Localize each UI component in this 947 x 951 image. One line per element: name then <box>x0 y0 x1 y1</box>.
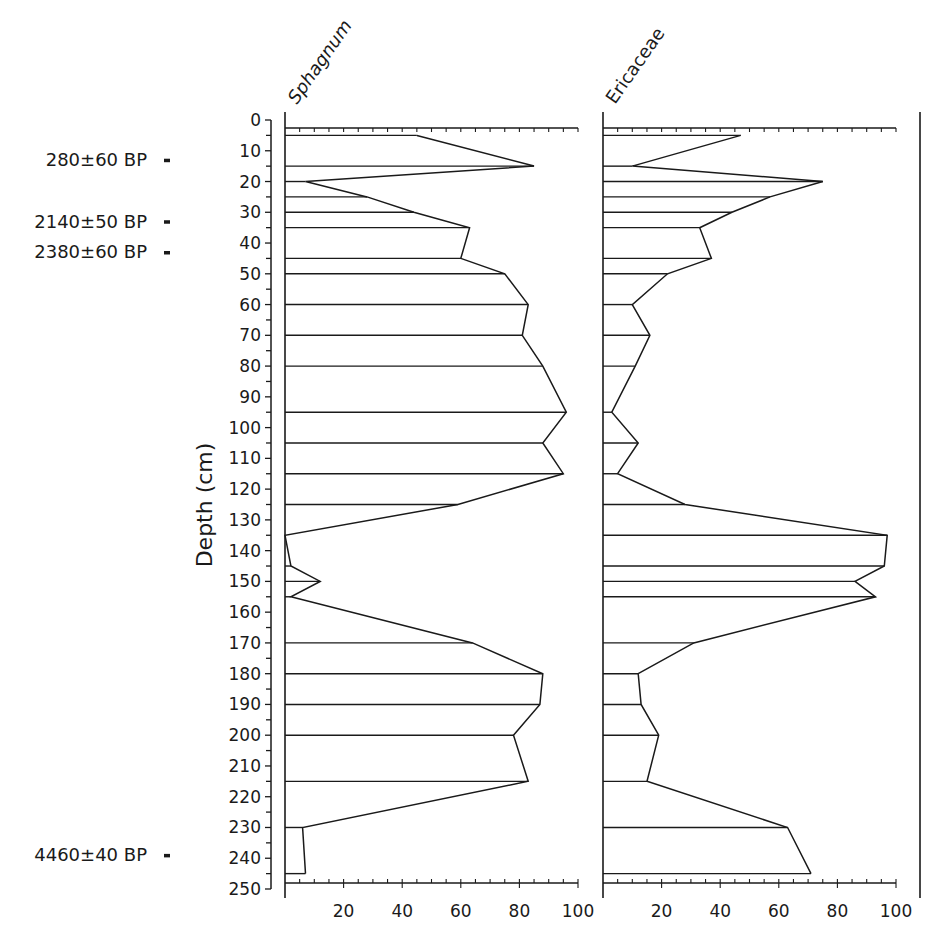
depth-tick-label: 110 <box>229 448 261 468</box>
ericaceae-panel: 20406080100Ericaceae <box>601 23 912 921</box>
depth-tick-label: 230 <box>229 817 261 837</box>
depth-tick-label: 150 <box>229 571 261 591</box>
percent-tick-label: 60 <box>768 901 790 921</box>
depth-tick-label: 100 <box>229 418 261 438</box>
date-marker <box>164 220 170 224</box>
depth-tick-label: 160 <box>229 602 261 622</box>
taxon-label: Ericaceae <box>601 23 669 107</box>
date-marker <box>164 251 170 255</box>
date-label: 4460±40 BP <box>34 844 147 865</box>
taxon-label: Sphagnum <box>283 16 356 108</box>
percent-tick-label: 40 <box>709 901 731 921</box>
depth-tick-label: 80 <box>239 356 261 376</box>
date-label: 280±60 BP <box>46 149 147 170</box>
date-label: 2140±50 BP <box>34 211 147 232</box>
radiocarbon-dates: 280±60 BP2140±50 BP2380±60 BP4460±40 BP <box>34 149 170 865</box>
depth-tick-label: 180 <box>229 664 261 684</box>
depth-tick-label: 190 <box>229 694 261 714</box>
depth-tick-label: 90 <box>239 387 261 407</box>
depth-tick-label: 130 <box>229 510 261 530</box>
percent-tick-label: 20 <box>333 901 355 921</box>
percent-tick-label: 100 <box>880 901 912 921</box>
depth-tick-label: 210 <box>229 756 261 776</box>
percent-tick-label: 60 <box>450 901 472 921</box>
percent-tick-label: 80 <box>827 901 849 921</box>
depth-tick-label: 200 <box>229 725 261 745</box>
percent-tick-label: 80 <box>509 901 531 921</box>
depth-axis-title: Depth (cm) <box>192 443 217 568</box>
depth-tick-label: 40 <box>239 233 261 253</box>
date-marker <box>164 854 170 858</box>
depth-tick-label: 30 <box>239 202 261 222</box>
depth-axis: 0102030405060708090100110120130140150160… <box>229 110 271 899</box>
depth-tick-label: 10 <box>239 141 261 161</box>
depth-tick-label: 70 <box>239 325 261 345</box>
depth-tick-label: 170 <box>229 633 261 653</box>
depth-tick-label: 60 <box>239 295 261 315</box>
depth-tick-label: 0 <box>250 110 261 130</box>
depth-tick-label: 250 <box>229 879 261 899</box>
percent-tick-label: 100 <box>562 901 594 921</box>
depth-tick-label: 220 <box>229 787 261 807</box>
date-label: 2380±60 BP <box>34 241 147 262</box>
depth-tick-label: 20 <box>239 172 261 192</box>
date-marker <box>164 159 170 163</box>
depth-tick-label: 140 <box>229 541 261 561</box>
percent-tick-label: 40 <box>391 901 413 921</box>
depth-tick-label: 120 <box>229 479 261 499</box>
depth-tick-label: 240 <box>229 848 261 868</box>
depth-tick-label: 50 <box>239 264 261 284</box>
percent-tick-label: 20 <box>651 901 673 921</box>
pollen-diagram: 280±60 BP2140±50 BP2380±60 BP4460±40 BP … <box>0 0 947 951</box>
sphagnum-panel: 20406080100Sphagnum <box>283 16 594 921</box>
